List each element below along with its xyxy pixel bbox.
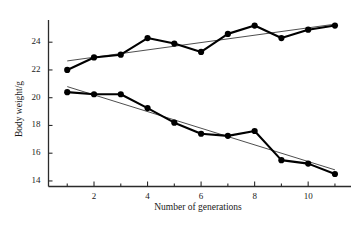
- data-point-marker: [252, 22, 258, 28]
- trendline-group: [67, 24, 335, 170]
- data-point-marker: [225, 133, 231, 139]
- x-axis-ticks: [67, 182, 335, 187]
- data-point-marker: [332, 22, 338, 28]
- chart-figure: 141618202224 246810 Body weight/g Number…: [0, 0, 357, 226]
- series-line: [67, 26, 335, 70]
- x-tick-label: 2: [84, 191, 104, 201]
- axis-lines: [49, 20, 352, 187]
- data-point-marker: [278, 157, 284, 163]
- data-point-marker: [144, 105, 150, 111]
- data-point-marker: [144, 35, 150, 41]
- lower-regression-line: [67, 87, 335, 170]
- data-point-marker: [64, 67, 70, 73]
- x-tick-label: 4: [138, 191, 158, 201]
- y-tick-label: 24: [19, 36, 41, 46]
- data-point-marker: [118, 91, 124, 97]
- data-point-marker: [91, 54, 97, 60]
- data-point-marker: [332, 171, 338, 177]
- data-series: [64, 89, 338, 177]
- x-axis-title: Number of generations: [48, 202, 348, 212]
- data-point-marker: [64, 89, 70, 95]
- x-tick-label: 6: [191, 191, 211, 201]
- data-point-marker: [252, 128, 258, 134]
- x-tick-label: 10: [298, 191, 318, 201]
- data-point-marker: [91, 91, 97, 97]
- data-series: [64, 22, 338, 73]
- data-point-marker: [171, 120, 177, 126]
- x-tick-label: 8: [245, 191, 265, 201]
- data-point-marker: [225, 31, 231, 37]
- y-tick-label: 14: [19, 175, 41, 185]
- data-point-marker: [171, 40, 177, 46]
- data-point-marker: [305, 161, 311, 167]
- data-point-marker: [278, 35, 284, 41]
- data-point-marker: [305, 27, 311, 33]
- data-point-marker: [198, 131, 204, 137]
- y-axis-title: Body weight/g: [14, 54, 24, 164]
- data-point-marker: [118, 52, 124, 58]
- series-group: [64, 22, 338, 177]
- data-point-marker: [198, 49, 204, 55]
